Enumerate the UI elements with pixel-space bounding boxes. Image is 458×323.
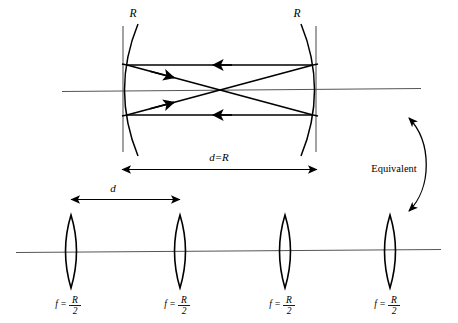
- cavity-ray-diagonal-down-arrowhead: [150, 71, 174, 77]
- lens-3-shape: [280, 215, 291, 288]
- optics-figure: R R d=R: [0, 0, 458, 323]
- lens-3-focal-denominator: 2: [287, 306, 292, 316]
- lens-4-focal-prefix: f =: [374, 299, 385, 309]
- cavity-ray-right-top-connector: [313, 64, 318, 65]
- cavity-ray-diagonal-up-arrowhead: [150, 102, 174, 108]
- cavity-length-label: d=R: [209, 151, 229, 163]
- lens-element-1: f = R 2: [55, 215, 81, 316]
- lens-2-focal-label: f = R 2: [164, 295, 190, 316]
- lens-4-shape: [385, 215, 396, 288]
- cavity-ray-left-bottom-connector: [122, 115, 127, 116]
- figure-canvas: R R d=R: [0, 0, 458, 323]
- cavity-optical-axis: [62, 89, 421, 92]
- lens-4-focal-numerator: R: [390, 295, 397, 305]
- lens-optical-axis: [16, 250, 441, 253]
- lens-4-focal-denominator: 2: [392, 306, 397, 316]
- lens-2-focal-denominator: 2: [182, 306, 187, 316]
- equivalent-label: Equivalent: [371, 163, 417, 174]
- lens-element-4: f = R 2: [374, 215, 400, 316]
- cavity-group: R R d=R: [62, 7, 421, 176]
- lens-4-focal-label: f = R 2: [374, 295, 400, 316]
- lens-1-focal-denominator: 2: [73, 306, 78, 316]
- lens-1-shape: [66, 215, 77, 288]
- lens-1-focal-label: f = R 2: [55, 295, 81, 316]
- lens-2-focal-numerator: R: [180, 295, 187, 305]
- right-mirror-radius-label: R: [292, 7, 300, 19]
- cavity-ray-right-bottom-connector: [313, 115, 318, 116]
- lens-3-focal-numerator: R: [285, 295, 292, 305]
- equivalence-group: Equivalent: [371, 118, 426, 211]
- lens-spacing-label: d: [110, 182, 116, 194]
- lens-element-2: f = R 2: [164, 215, 190, 316]
- left-mirror-arc: [125, 24, 139, 156]
- lens-3-focal-label: f = R 2: [269, 295, 295, 316]
- lens-2-focal-prefix: f =: [164, 299, 175, 309]
- lens-1-focal-prefix: f =: [55, 299, 66, 309]
- cavity-ray-left-top-connector: [122, 64, 127, 65]
- lens-waveguide-group: d f = R 2 f = R 2: [16, 182, 441, 316]
- lens-3-focal-prefix: f =: [269, 299, 280, 309]
- lens-1-focal-numerator: R: [71, 295, 78, 305]
- left-mirror-radius-label: R: [128, 7, 136, 19]
- lens-element-3: f = R 2: [269, 215, 295, 316]
